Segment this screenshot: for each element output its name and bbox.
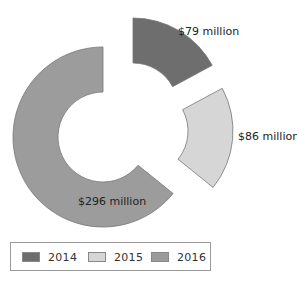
chart-legend: 2014 2015 2016 — [10, 242, 211, 271]
legend-swatch-2015 — [88, 252, 106, 262]
legend-item-2014: 2014 — [22, 251, 77, 263]
legend-item-2015: 2015 — [88, 251, 143, 263]
legend-label-2016: 2016 — [177, 251, 206, 264]
legend-label-2014: 2014 — [48, 251, 77, 264]
legend-swatch-2014 — [22, 252, 40, 262]
data-label-2014: $79 million — [178, 25, 239, 38]
donut-chart: $79 million$86 million$296 million — [0, 0, 297, 240]
legend-swatch-2016 — [151, 252, 169, 262]
data-label-2015: $86 million — [238, 130, 297, 143]
data-label-2016: $296 million — [78, 195, 146, 208]
segment-2015 — [178, 88, 233, 187]
legend-label-2015: 2015 — [114, 251, 143, 264]
legend-item-2016: 2016 — [151, 251, 206, 263]
